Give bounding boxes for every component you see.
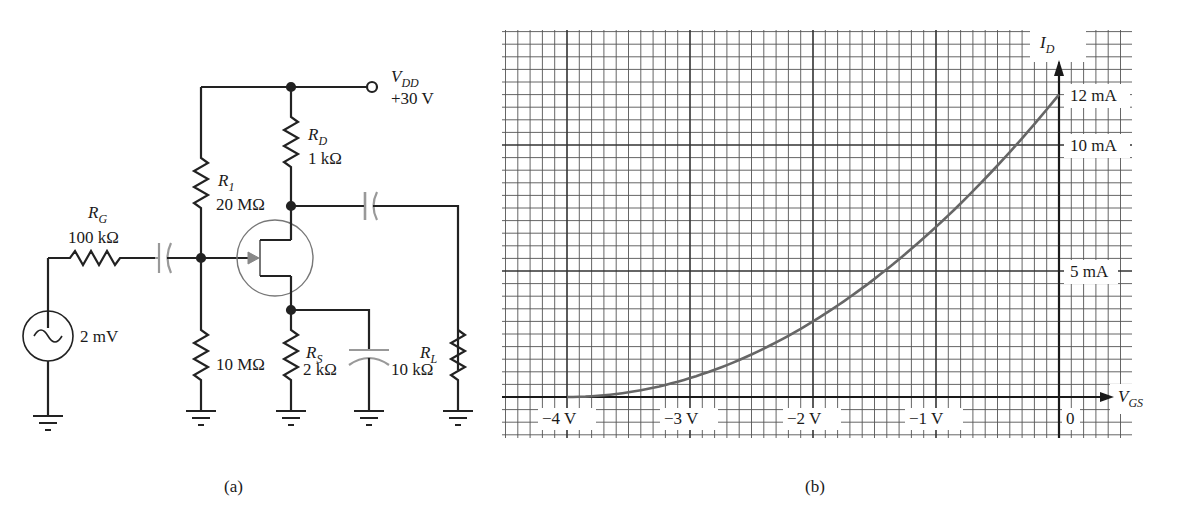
ground-symbol bbox=[276, 411, 306, 425]
circuit-labels: VDD +30 V RD 1 kΩ R1 20 MΩ RG 100 kΩ 2 m… bbox=[68, 67, 437, 496]
transfer-characteristic-chart: ID VGS 12 mA 10 mA 5 mA −4 V −3 V −2 V −… bbox=[502, 28, 1168, 496]
id-axis-arrow-icon bbox=[1054, 60, 1064, 76]
rd-value: 1 kΩ bbox=[308, 149, 342, 168]
ground-symbol bbox=[443, 411, 473, 425]
resistor-rg bbox=[48, 251, 155, 265]
vdd-value: +30 V bbox=[391, 89, 435, 108]
rg-value: 100 kΩ bbox=[68, 228, 119, 247]
grid-minor bbox=[502, 30, 1132, 438]
rg-label: RG bbox=[87, 203, 107, 226]
r1-label: R1 bbox=[217, 171, 234, 194]
sine-wave-icon bbox=[34, 330, 62, 342]
r1-value: 20 MΩ bbox=[216, 195, 265, 214]
rl-value: 10 kΩ bbox=[391, 360, 433, 379]
grid-major bbox=[502, 30, 1132, 438]
output-capacitor bbox=[291, 192, 365, 220]
caption-b: (b) bbox=[805, 477, 825, 496]
rd-label: RD bbox=[307, 125, 327, 148]
resistor-rs bbox=[284, 310, 298, 411]
r2-value: 10 MΩ bbox=[216, 355, 265, 374]
rs-value: 2 kΩ bbox=[303, 360, 337, 379]
caption-a: (a) bbox=[224, 477, 243, 496]
ground-symbol bbox=[354, 358, 384, 425]
vdd-terminal bbox=[367, 82, 377, 92]
tick-minus2v: −2 V bbox=[787, 409, 822, 428]
tick-10ma: 10 mA bbox=[1070, 136, 1117, 155]
source-value: 2 mV bbox=[80, 327, 119, 346]
tick-5ma: 5 mA bbox=[1070, 262, 1109, 281]
resistor-r1 bbox=[194, 87, 208, 258]
capacitor-plate bbox=[155, 243, 159, 273]
resistor-rd bbox=[284, 87, 298, 240]
ground-symbol bbox=[33, 361, 63, 430]
gate-arrow-icon bbox=[248, 252, 259, 264]
tick-minus1v: −1 V bbox=[909, 409, 944, 428]
tick-12ma: 12 mA bbox=[1070, 86, 1117, 105]
ground-symbol bbox=[186, 411, 216, 425]
figure-canvas: VDD +30 V RD 1 kΩ R1 20 MΩ RG 100 kΩ 2 m… bbox=[0, 0, 1195, 518]
tick-minus3v: −3 V bbox=[664, 409, 699, 428]
tick-minus4v: −4 V bbox=[542, 409, 577, 428]
resistor-r2 bbox=[194, 258, 208, 411]
vdd-label: VDD bbox=[391, 67, 419, 90]
tick-zero: 0 bbox=[1066, 409, 1075, 428]
